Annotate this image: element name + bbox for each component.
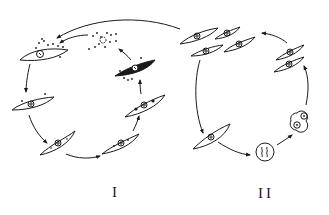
arrow-s1-s2 bbox=[26, 64, 30, 92]
cell-s1 bbox=[20, 49, 68, 61]
cycle-label-1: I bbox=[112, 184, 120, 201]
cell-t4 bbox=[290, 111, 308, 132]
return-arrow-long bbox=[57, 20, 180, 38]
arrow-t4-t5 bbox=[304, 66, 308, 105]
arrow-s3-s4 bbox=[66, 154, 100, 158]
arrow-s2-s3 bbox=[29, 115, 47, 143]
cell-t3 bbox=[256, 143, 274, 161]
cell-pair-t5 bbox=[274, 45, 304, 72]
arrow-s6-s7 bbox=[119, 49, 131, 60]
arrow-t3-t4 bbox=[277, 135, 292, 145]
cell-s2 bbox=[12, 93, 54, 110]
arrow-s7-s1 bbox=[60, 35, 88, 43]
cycle-label-2: II bbox=[258, 185, 274, 202]
arrow-t2-t3 bbox=[218, 142, 250, 155]
arrow-t5-t1 bbox=[262, 33, 287, 43]
cell-t2 bbox=[193, 124, 230, 149]
cell-s3 bbox=[40, 131, 75, 155]
arrow-s5-s6 bbox=[140, 80, 141, 94]
cell-cycle-diagram bbox=[0, 0, 329, 215]
cell-s4 bbox=[102, 134, 139, 154]
cell-s7 bbox=[88, 32, 117, 50]
cell-s6 bbox=[115, 57, 155, 81]
arrow-s4-s5 bbox=[133, 116, 139, 131]
cell-s5 bbox=[125, 95, 165, 117]
cell-cluster-t1 bbox=[180, 27, 255, 56]
arrow-t1-t2 bbox=[196, 60, 203, 133]
